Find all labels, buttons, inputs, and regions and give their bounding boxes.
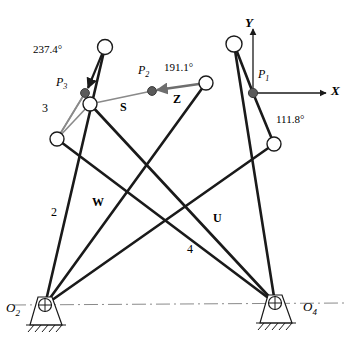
O4-subscript: 4 xyxy=(312,307,317,317)
O2-letter: O xyxy=(6,300,15,315)
joint-lower-right xyxy=(267,137,281,151)
link-O4-to-joint-lower-left xyxy=(57,139,275,303)
O2-subscript: 2 xyxy=(15,308,20,318)
coordinate-axes xyxy=(253,29,326,93)
link-label-4: 4 xyxy=(187,243,193,255)
joint-lower-left xyxy=(50,132,64,146)
precision-point-P3 xyxy=(81,89,90,98)
O4-letter: O xyxy=(303,299,312,314)
precision-point-label-P1: P1 xyxy=(258,68,269,83)
ground-pivot-O4 xyxy=(256,295,296,330)
joint-top-left xyxy=(98,40,113,55)
link-O2-to-joint-coupler-right xyxy=(45,83,206,305)
precision-point-label-P3: P3 xyxy=(56,76,67,91)
precision-point-P2 xyxy=(148,87,157,96)
angle-label-191: 191.1° xyxy=(164,62,193,73)
pivot-label-O4: O4 xyxy=(303,300,317,317)
pivot-O4-hatching xyxy=(258,323,292,330)
link-label-3: 3 xyxy=(42,102,48,114)
joint-mid-left xyxy=(83,97,97,111)
ground-centerline-group xyxy=(12,303,345,305)
angle-label-237: 237.4° xyxy=(33,44,62,55)
pivot-O2-hatching xyxy=(28,325,62,332)
vector-label-U: U xyxy=(213,212,222,224)
precision-point-label-P2: P2 xyxy=(138,64,149,79)
vector-label-W: W xyxy=(92,196,104,208)
linkage-figure: 237.4° 191.1° 111.8° S Z W U 2 3 4 P1 P2… xyxy=(0,0,352,341)
joint-top-right xyxy=(226,36,242,52)
pivot-label-O2: O2 xyxy=(6,301,20,318)
P1-subscript: 1 xyxy=(265,74,269,83)
P2-subscript: 2 xyxy=(145,70,149,79)
link-label-2: 2 xyxy=(51,206,57,218)
joint-coupler-right xyxy=(199,76,213,90)
precision-point-P1 xyxy=(248,88,257,97)
P3-subscript: 3 xyxy=(63,82,67,91)
vector-label-S: S xyxy=(120,101,127,113)
vector-label-Z: Z xyxy=(173,93,181,105)
link-O2-to-joint-top-left xyxy=(45,47,105,305)
x-axis-label: X xyxy=(331,84,340,97)
ground-centerline xyxy=(12,303,345,305)
vector-S-extension xyxy=(57,93,85,139)
ground-pivot-O2 xyxy=(26,297,66,332)
link-P1-to-lower-right xyxy=(253,93,274,144)
angle-label-112: 111.8° xyxy=(276,114,304,125)
y-axis-label: Y xyxy=(245,16,253,29)
dark-links xyxy=(45,44,275,305)
link-O2-to-joint-lower-right xyxy=(45,144,274,305)
